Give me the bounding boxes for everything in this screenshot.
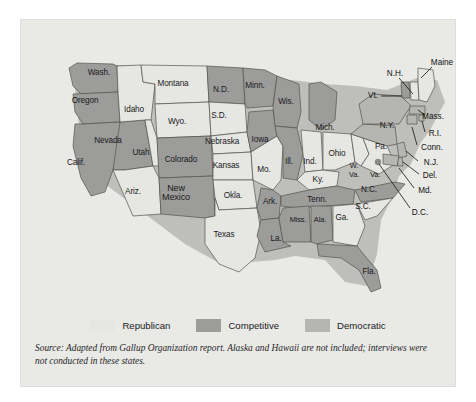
legend-label-democratic: Democratic — [337, 320, 386, 331]
state-label-utah: Utah — [133, 149, 150, 158]
state-label-ill: Ill. — [285, 158, 293, 167]
state-label-la: La. — [270, 235, 281, 244]
state-label-nd: N.D. — [213, 86, 229, 95]
callout-label-maine: Maine — [431, 58, 453, 67]
state-newhampshire — [410, 82, 419, 100]
callout-label-md: Md. — [418, 186, 432, 195]
state-label-colorado: Colorado — [165, 156, 197, 165]
state-label-sc: S.C. — [355, 203, 371, 212]
legend-label-competitive: Competitive — [228, 320, 279, 331]
state-label-kansas: Kansas — [213, 162, 240, 171]
state-label-idaho: Idaho — [124, 106, 144, 115]
map-legend: Republican Competitive Democratic — [21, 310, 455, 340]
callout-label-nj: N.J. — [424, 158, 439, 167]
state-label-mo: Mo. — [257, 166, 270, 175]
state-label-nebraska: Nebraska — [205, 138, 239, 147]
state-label-ind: Ind. — [303, 158, 316, 167]
state-vermont — [401, 82, 410, 98]
state-label-mich: Mich. — [315, 124, 334, 133]
source-note-wrap: Source: Adapted from Gallup Organization… — [21, 342, 455, 367]
source-note: Source: Adapted from Gallup Organization… — [35, 342, 441, 367]
state-label-minn: Minn. — [245, 82, 265, 91]
state-label-tenn: Tenn. — [307, 196, 327, 205]
callout-label-vt: Vt. — [368, 91, 378, 100]
callout-label-conn: Conn. — [421, 143, 443, 152]
state-label-ark: Ark. — [263, 198, 277, 207]
legend-swatch-democratic — [305, 319, 330, 332]
state-label-wva: W.Va. — [349, 162, 359, 179]
callout-label-dc: D.C. — [412, 208, 428, 217]
state-label-ohio: Ohio — [329, 150, 346, 159]
legend-swatch-republican — [90, 319, 115, 332]
state-label-iowa: Iowa — [252, 136, 269, 145]
state-label-wash: Wash. — [88, 69, 110, 78]
legend-item-democratic: Democratic — [305, 319, 386, 332]
state-connecticut — [407, 115, 417, 124]
state-label-ala: Ala. — [314, 216, 326, 225]
state-label-okla: Okla. — [224, 192, 243, 201]
callout-label-mass: Mass. — [422, 112, 444, 121]
state-label-calif: Calif. — [67, 159, 85, 168]
us-electoral-map: .st { stroke: #55544f; stroke-width: 0.7… — [21, 20, 455, 310]
state-label-wyo: Wyo. — [168, 118, 186, 127]
state-label-sd: S.D. — [211, 112, 227, 121]
state-label-ny: N.Y. — [380, 122, 394, 131]
state-label-nevada: Nevada — [94, 137, 122, 146]
state-label-va: Va. — [370, 171, 380, 180]
callout-label-ri: R.I. — [429, 129, 442, 138]
legend-item-republican: Republican — [90, 319, 170, 332]
state-label-wis: Wis. — [278, 98, 294, 107]
state-label-fla: Fla. — [362, 268, 375, 277]
state-label-miss: Miss. — [290, 216, 307, 225]
map-figure: .st { stroke: #55544f; stroke-width: 0.7… — [21, 20, 455, 386]
state-label-oregon: Oregon — [72, 97, 99, 106]
state-label-ky: Ky. — [313, 176, 324, 185]
callout-label-nh: N.H. — [387, 69, 403, 78]
state-label-newmexico: NewMexico — [162, 184, 190, 201]
state-maryland — [383, 154, 399, 166]
state-label-texas: Texas — [214, 231, 235, 240]
state-label-montana: Montana — [157, 80, 188, 89]
legend-item-competitive: Competitive — [196, 319, 279, 332]
state-label-ariz: Ariz. — [125, 188, 141, 197]
state-label-nc: N.C. — [361, 186, 377, 195]
dc-marker — [375, 159, 381, 165]
state-label-ga: Ga. — [336, 214, 349, 223]
state-alabama — [311, 206, 333, 244]
callout-label-del: Del. — [423, 171, 438, 180]
state-label-pa: Pa. — [375, 143, 387, 152]
legend-swatch-competitive — [196, 319, 221, 332]
legend-label-republican: Republican — [122, 320, 170, 331]
